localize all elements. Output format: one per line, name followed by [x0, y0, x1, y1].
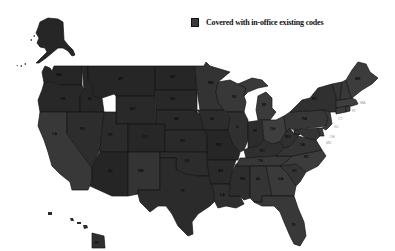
- svg-text:ME: ME: [355, 77, 361, 81]
- svg-text:GA: GA: [278, 177, 284, 181]
- svg-text:OK: OK: [184, 159, 190, 163]
- svg-text:WI: WI: [232, 95, 236, 99]
- svg-text:PA: PA: [302, 117, 307, 121]
- svg-text:VA: VA: [300, 143, 305, 147]
- svg-text:MN: MN: [208, 81, 214, 85]
- contiguous-states: [38, 62, 378, 246]
- svg-text:RI: RI: [352, 109, 356, 113]
- svg-text:DE: DE: [330, 135, 336, 139]
- svg-text:KS: KS: [180, 139, 186, 143]
- svg-text:MO: MO: [216, 143, 222, 147]
- svg-text:SD: SD: [170, 97, 175, 101]
- us-map: WA OR CA ID NV MT WY UT AZ CO NM ND SD N…: [0, 0, 395, 251]
- svg-text:OR: OR: [60, 97, 66, 101]
- svg-text:WA: WA: [56, 73, 62, 77]
- svg-text:NE: NE: [174, 117, 180, 121]
- svg-text:KY: KY: [260, 149, 266, 153]
- svg-text:ID: ID: [88, 97, 92, 101]
- svg-text:NM: NM: [138, 169, 144, 173]
- svg-text:MD: MD: [326, 141, 332, 145]
- svg-text:MA: MA: [360, 101, 366, 105]
- legend-label-covered: Covered with in-office existing codes: [206, 18, 323, 27]
- svg-text:MI: MI: [262, 103, 266, 107]
- svg-text:OH: OH: [270, 127, 276, 131]
- svg-text:LA: LA: [220, 193, 225, 197]
- svg-text:AL: AL: [256, 177, 262, 181]
- svg-text:IN: IN: [253, 129, 257, 133]
- svg-text:MS: MS: [240, 177, 246, 181]
- svg-text:MT: MT: [118, 77, 124, 81]
- state-ak: [16, 18, 75, 67]
- svg-text:HI: HI: [95, 241, 99, 245]
- svg-text:CO: CO: [142, 135, 148, 139]
- svg-text:AR: AR: [218, 169, 224, 173]
- svg-text:SC: SC: [292, 169, 297, 173]
- svg-text:UT: UT: [108, 133, 114, 137]
- svg-text:TX: TX: [180, 189, 185, 193]
- legend-swatch-covered: [191, 18, 199, 27]
- svg-text:WV: WV: [285, 135, 291, 139]
- svg-text:WY: WY: [130, 107, 136, 111]
- svg-text:NJ: NJ: [334, 125, 339, 129]
- svg-text:CT: CT: [338, 117, 344, 121]
- svg-text:NC: NC: [304, 155, 310, 159]
- svg-text:NV: NV: [80, 127, 86, 131]
- svg-text:NY: NY: [312, 97, 318, 101]
- svg-text:AZ: AZ: [108, 169, 114, 173]
- svg-text:IA: IA: [210, 117, 214, 121]
- svg-text:ND: ND: [170, 75, 176, 79]
- svg-text:CA: CA: [52, 132, 58, 136]
- map-legend: Covered with in-office existing codes: [191, 18, 323, 27]
- svg-text:TN: TN: [258, 159, 263, 163]
